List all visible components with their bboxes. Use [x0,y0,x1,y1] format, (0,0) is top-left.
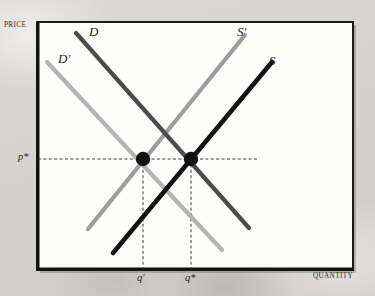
figure-page: PRICE QUANTITY D D′ S′ S p* q′ q* [0,0,375,296]
x-axis-caption: QUANTITY [313,272,353,280]
curve-label-supply-shifted: S′ [237,24,246,40]
curve-label-demand-original: D [89,24,98,40]
curve-label-supply-original: S [269,53,276,69]
x-tick-label-quantity-star: q* [185,272,196,283]
y-tick-label-price-star: p* [18,151,29,162]
equilibrium-point-original [184,152,198,166]
equilibrium-point-shifted [136,152,150,166]
y-axis-caption: PRICE [4,21,26,29]
supply-demand-plot [0,0,375,296]
x-tick-label-quantity-prime: q′ [137,272,145,283]
plot-area-background [37,22,353,270]
curve-label-demand-shifted: D′ [58,51,70,67]
